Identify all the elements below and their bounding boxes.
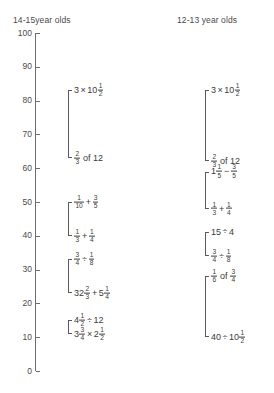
denominator: 4 xyxy=(74,260,80,267)
y-axis-tick-label: 80 xyxy=(6,96,32,105)
denominator: 2 xyxy=(99,334,105,341)
denominator: 3 xyxy=(84,294,90,301)
expression-label: 334×212 xyxy=(74,326,105,341)
fraction: 12 xyxy=(99,326,105,341)
fraction: 34 xyxy=(230,269,236,284)
denominator: 3 xyxy=(74,158,80,165)
denominator: 5 xyxy=(231,172,237,179)
denominator: 10 xyxy=(74,202,83,209)
operator-icon: × xyxy=(85,328,93,338)
fraction: 23 xyxy=(84,286,90,301)
column-header-right: 12-13 year olds xyxy=(177,15,237,25)
fraction: 16 xyxy=(211,269,217,284)
fraction: 34 xyxy=(211,249,217,264)
operator-icon: ÷ xyxy=(221,332,229,342)
fraction: 18 xyxy=(89,252,95,267)
operand: 4 xyxy=(229,228,234,237)
denominator: 5 xyxy=(93,202,99,209)
y-axis-tick-label-text: 10 xyxy=(8,333,32,342)
operand: 12 xyxy=(93,316,103,325)
expression-label: 13+14 xyxy=(211,201,232,216)
operand: 10 xyxy=(87,86,97,95)
fraction: 35 xyxy=(93,194,99,209)
operand: 1 xyxy=(211,167,216,176)
operator-icon: − xyxy=(222,166,230,176)
y-axis-tick-label: 10 xyxy=(6,333,32,342)
denominator: 4 xyxy=(79,334,85,341)
fraction: 14 xyxy=(89,228,95,243)
expression-label: 34÷18 xyxy=(211,249,232,264)
expression-label: 23 of 12 xyxy=(74,151,103,166)
range-bracket xyxy=(68,202,72,236)
operator-icon: × xyxy=(79,85,87,95)
denominator: 2 xyxy=(239,338,245,345)
y-axis-tick xyxy=(36,67,40,68)
expression-label: 115−35 xyxy=(211,164,237,179)
operand: 10 xyxy=(224,86,234,95)
y-axis-tick-label: 40 xyxy=(6,231,32,240)
operator-icon: + xyxy=(84,196,92,206)
expression-label: 3×1012 xyxy=(211,83,241,98)
expression-label: 34÷18 xyxy=(74,252,95,267)
column-header-left: 14-15year olds xyxy=(13,15,71,25)
range-bracket xyxy=(68,259,72,293)
fraction: 12 xyxy=(98,83,104,98)
y-axis-tick xyxy=(36,371,40,372)
fraction: 12 xyxy=(235,83,241,98)
y-axis-tick xyxy=(36,337,40,338)
y-axis-tick xyxy=(36,303,40,304)
range-bracket xyxy=(68,320,72,334)
operand: 40 xyxy=(211,333,221,342)
fraction: 14 xyxy=(226,201,232,216)
operator-icon: ÷ xyxy=(85,315,93,325)
operand: 5 xyxy=(99,289,104,298)
fraction: 34 xyxy=(74,252,80,267)
fraction: 13 xyxy=(211,201,217,216)
operand: 10 xyxy=(229,333,239,342)
fraction: 110 xyxy=(74,194,83,209)
y-axis-tick-label: 50 xyxy=(6,198,32,207)
expression-label: 110+35 xyxy=(74,195,99,210)
operand: 15 xyxy=(211,228,221,237)
operator-icon: ÷ xyxy=(80,254,88,264)
operand: 32 xyxy=(74,289,84,298)
range-bracket xyxy=(205,90,209,161)
denominator: 4 xyxy=(89,236,95,243)
fraction: 15 xyxy=(216,164,222,179)
operand: of xyxy=(220,272,228,281)
fraction: 34 xyxy=(79,326,85,341)
y-axis-tick-label-text: 0 xyxy=(8,367,32,376)
y-axis-tick-label-text: 80 xyxy=(8,96,32,105)
denominator: 3 xyxy=(211,209,217,216)
operand: 3 xyxy=(74,329,79,338)
denominator: 4 xyxy=(211,256,217,263)
y-axis-tick-label-text: 30 xyxy=(8,265,32,274)
operator-icon: ÷ xyxy=(217,250,225,260)
y-axis-tick-label-text: 70 xyxy=(8,130,32,139)
operator-icon: + xyxy=(90,288,98,298)
denominator: 5 xyxy=(216,172,222,179)
y-axis-tick-label: 90 xyxy=(6,62,32,71)
denominator: 4 xyxy=(104,294,110,301)
y-axis-tick-label-text: 60 xyxy=(8,164,32,173)
denominator: 8 xyxy=(89,260,95,267)
y-axis-tick xyxy=(36,168,40,169)
expression-label: 3223+514 xyxy=(74,286,110,301)
expression-label: 3×1012 xyxy=(74,83,104,98)
y-axis-tick xyxy=(36,236,40,237)
range-bracket xyxy=(205,172,209,209)
denominator: 4 xyxy=(226,209,232,216)
operand: 4 xyxy=(74,316,79,325)
range-bracket xyxy=(68,90,72,158)
y-axis-tick xyxy=(36,134,40,135)
y-axis-tick-label-text: 40 xyxy=(8,231,32,240)
fraction: 12 xyxy=(239,330,245,345)
denominator: 2 xyxy=(98,91,104,98)
y-axis-tick-label-text: 50 xyxy=(8,198,32,207)
fraction: 23 xyxy=(74,150,80,165)
range-bracket xyxy=(205,232,209,256)
y-axis-tick-label: 60 xyxy=(6,164,32,173)
y-axis-tick-label-text: 90 xyxy=(8,62,32,71)
expression-label: 40÷1012 xyxy=(211,330,245,345)
denominator: 2 xyxy=(235,91,241,98)
